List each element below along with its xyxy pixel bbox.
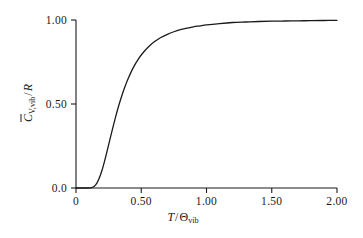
x-axis-title: T/Θvib: [167, 210, 198, 225]
x-tick-label-2: 1.00: [196, 195, 217, 207]
figure-canvas: 00.501.001.502.00 0.00.501.00 T/Θvib CV,…: [0, 0, 363, 238]
data-curve-einstein: [76, 20, 337, 188]
x-tick-label-3: 1.50: [261, 195, 282, 207]
x-tick-label-0: 0: [73, 195, 79, 207]
x-axis-denominator: Θ: [179, 210, 188, 224]
x-tick-label-4: 2.00: [326, 195, 347, 207]
y-axis-symbol-subscript: V,vib: [28, 97, 37, 114]
x-axis-ticks: [76, 188, 337, 193]
y-axis-ticks: [71, 20, 76, 188]
y-tick-label-2: 1.00: [0, 14, 67, 26]
x-axis-variable: T: [167, 210, 174, 224]
y-axis-title: CV,vib/R: [21, 84, 36, 122]
x-tick-label-1: 0.50: [131, 195, 152, 207]
y-axis-denominator: R: [21, 84, 35, 91]
x-axis-denominator-subscript: vib: [188, 216, 198, 225]
plot-svg: [0, 0, 363, 238]
y-tick-label-0: 0.0: [0, 182, 67, 194]
y-axis-symbol: C: [21, 114, 36, 122]
y-axis-separator: /: [21, 91, 35, 96]
